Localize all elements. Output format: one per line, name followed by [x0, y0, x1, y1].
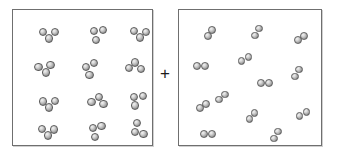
atom-sphere — [91, 133, 99, 141]
atom-sphere — [300, 32, 308, 40]
atom-sphere — [208, 26, 216, 34]
atom-sphere — [133, 119, 141, 127]
atom-sphere — [82, 63, 90, 71]
atom-sphere — [255, 25, 263, 33]
reaction-diagram: + — [0, 0, 338, 152]
left-reactant-box — [12, 9, 153, 146]
atom-sphere — [95, 93, 103, 101]
atom-sphere — [92, 36, 100, 44]
atom-sphere — [131, 128, 139, 136]
atom-sphere — [139, 92, 147, 100]
atom-sphere — [139, 130, 147, 138]
atom-sphere — [45, 103, 53, 111]
atom-sphere — [295, 66, 303, 74]
atom-sphere — [270, 135, 278, 143]
atom-sphere — [193, 62, 201, 70]
atom-sphere — [90, 59, 98, 67]
atom-sphere — [245, 53, 253, 61]
atom-sphere — [85, 71, 93, 79]
atom-sphere — [208, 130, 216, 138]
atom-sphere — [274, 128, 282, 136]
atom-sphere — [87, 98, 95, 106]
atom-sphere — [202, 100, 210, 108]
atom-sphere — [201, 62, 209, 70]
plus-operator: + — [156, 62, 174, 86]
atom-sphere — [291, 73, 299, 81]
atom-sphere — [45, 34, 53, 42]
atom-sphere — [200, 130, 208, 138]
atom-sphere — [257, 79, 265, 87]
atom-sphere — [221, 91, 229, 99]
atom-sphere — [42, 68, 50, 76]
atom-sphere — [136, 33, 144, 41]
atom-sphere — [90, 27, 98, 35]
atom-sphere — [251, 109, 259, 117]
atom-sphere — [265, 79, 273, 87]
atom-sphere — [97, 122, 105, 130]
atom-sphere — [99, 100, 107, 108]
atom-sphere — [89, 124, 97, 132]
atom-sphere — [303, 108, 311, 116]
atom-sphere — [131, 101, 139, 109]
atom-sphere — [130, 93, 138, 101]
atom-sphere — [131, 58, 139, 66]
atom-sphere — [44, 131, 52, 139]
atom-sphere — [137, 65, 145, 73]
atom-sphere — [251, 32, 259, 40]
atom-sphere — [99, 26, 107, 34]
atom-sphere — [204, 32, 212, 40]
right-reactant-box — [178, 9, 322, 146]
